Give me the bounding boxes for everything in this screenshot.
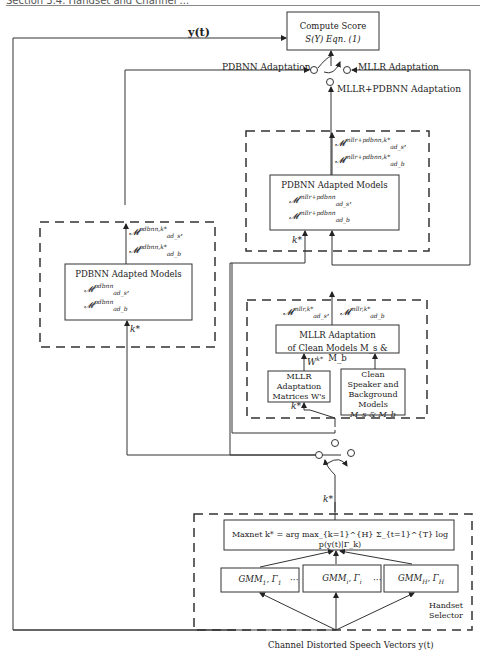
diagram-lines (0, 0, 485, 668)
mllr-pdbnn-output-s: 𝓜mllr+pdbnn,k*ad_s, (335, 137, 407, 150)
gmm-box-i: GMMi, Γi (303, 573, 381, 585)
k-star-label: k* (291, 402, 301, 412)
score-equation-label: S(Y) Eqn. (1) (288, 34, 378, 45)
mllr-pdbnn-output-b: 𝓜mllr+pdbnn,k*ad_b (335, 154, 404, 167)
gmm-box-h: GMMH, ΓH (384, 573, 458, 585)
pdbnn-output-s: 𝓜pdbnn,k*ad_s, (129, 226, 183, 239)
compute-score-label: Compute Score (288, 21, 378, 32)
mllr-adaptation-subtitle: of Clean Models M_s & M_b (277, 343, 398, 364)
mllr-adaptation-title: MLLR Adaptation (277, 330, 398, 341)
gmm-ellipsis: ··· (290, 576, 299, 586)
handset-selector-label: Handset Selector (426, 601, 466, 621)
maxnet-box: Maxnet k* = arg max_{k=1}^{H} Σ_{t=1}^{T… (226, 530, 454, 550)
speech-vectors-label: Channel Distorted Speech Vectors y(t) (268, 641, 433, 650)
mllr-adaptation-label: MLLR Adaptation (358, 63, 439, 73)
mllr-pdbnn-adaptation-label: MLLR+PDBNN Adaptation (337, 85, 461, 95)
w-k-star-label: Wk* (307, 356, 323, 368)
box-title: PDBNN Adapted Models (271, 180, 398, 191)
k-star-label: k* (130, 325, 140, 335)
mllr-output-b: 𝓜mllr,k*ad_b (340, 306, 385, 319)
pdbnn-adaptation-label: PDBNN Adaptation (222, 63, 311, 73)
mllr-adaptation-box: MLLR Adaptation of Clean Models M_s & M_… (277, 328, 398, 366)
gmm-box-1: GMM1, Γ1 (221, 574, 299, 586)
box-title: PDBNN Adapted Models (66, 269, 191, 280)
compute-score-box: Compute Score S(Y) Eqn. (1) (288, 19, 378, 46)
pdbnn-output-b: 𝓜pdbnn,k*ad_b (129, 244, 181, 257)
clean-models-box: Clean Speaker and Background Models M_s … (341, 370, 405, 420)
k-star-label: k* (292, 236, 302, 246)
mllr-output-s: 𝓜mllr,k*ad_s, (283, 306, 330, 319)
input-signal-label: y(t) (188, 27, 210, 39)
pdbnn-adapted-models-box: PDBNN Adapted Models 𝓜pdbnnad_s, 𝓜pdbnna… (66, 267, 191, 314)
mllr-pdbnn-adapted-models-box: PDBNN Adapted Models 𝓜mllr+pdbnnad_s, 𝓜m… (271, 178, 398, 225)
gmm-ellipsis: ··· (373, 576, 382, 586)
mllr-matrices-box: MLLR Adaptation Matrices W's (268, 372, 330, 402)
selector-k-star-label: k* (323, 495, 333, 505)
